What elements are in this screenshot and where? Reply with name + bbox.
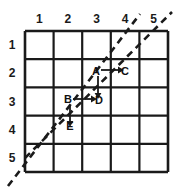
column-label-5: 5 xyxy=(147,13,161,25)
row-label-3: 3 xyxy=(5,96,19,108)
column-label-4: 4 xyxy=(118,13,132,25)
grid-diagram-figure: 12345 12345 ACBDE xyxy=(0,0,176,191)
diagram-canvas xyxy=(0,0,176,191)
row-label-1: 1 xyxy=(5,39,19,51)
point-label-C: C xyxy=(119,66,131,77)
column-label-2: 2 xyxy=(61,13,75,25)
point-label-E: E xyxy=(64,121,76,132)
point-label-D: D xyxy=(93,95,105,106)
column-label-3: 3 xyxy=(90,13,104,25)
point-label-B: B xyxy=(62,94,74,105)
row-label-2: 2 xyxy=(5,67,19,79)
row-label-5: 5 xyxy=(5,152,19,164)
point-label-A: A xyxy=(90,66,102,77)
column-label-1: 1 xyxy=(32,13,46,25)
dashed-line-lower-diagonal xyxy=(8,14,140,186)
row-label-4: 4 xyxy=(5,124,19,136)
